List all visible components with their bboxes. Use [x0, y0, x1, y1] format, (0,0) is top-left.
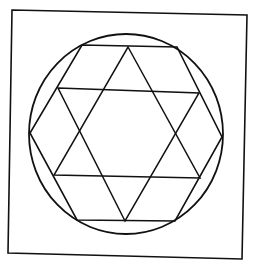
background [0, 0, 257, 265]
hexagram-diagram [0, 0, 257, 265]
